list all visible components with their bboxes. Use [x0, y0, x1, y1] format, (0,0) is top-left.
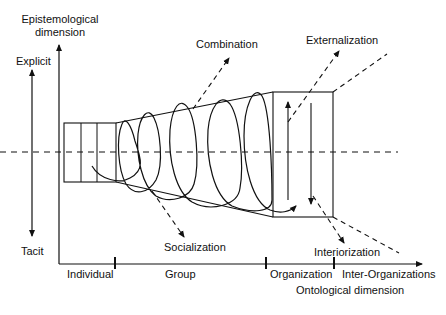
organization-box	[273, 92, 333, 217]
combination-label: Combination	[196, 38, 258, 51]
x-level-group: Group	[165, 268, 196, 281]
x-axis-label: Ontological dimension	[296, 284, 404, 297]
tacit-label: Tacit	[21, 245, 44, 258]
y-axis-label: Epistemological dimension	[20, 13, 100, 39]
externalization-leader-2	[333, 54, 387, 92]
y-axis-label-line1: Epistemological	[20, 13, 100, 26]
socialization-label: Socialization	[164, 241, 226, 254]
x-level-individual: Individual	[67, 268, 113, 281]
externalization-label: Externalization	[306, 34, 378, 47]
externalization-leader	[288, 51, 339, 122]
x-level-organization: Organization	[270, 268, 332, 281]
explicit-label: Explicit	[16, 55, 51, 68]
x-level-inter-organizations: Inter-Organizations	[342, 268, 436, 281]
y-axis-label-line2: dimension	[20, 26, 100, 39]
interiorization-label: Interiorization	[314, 246, 380, 259]
funnel-bottom-edge	[116, 182, 273, 217]
interiorization-leader	[313, 196, 344, 243]
